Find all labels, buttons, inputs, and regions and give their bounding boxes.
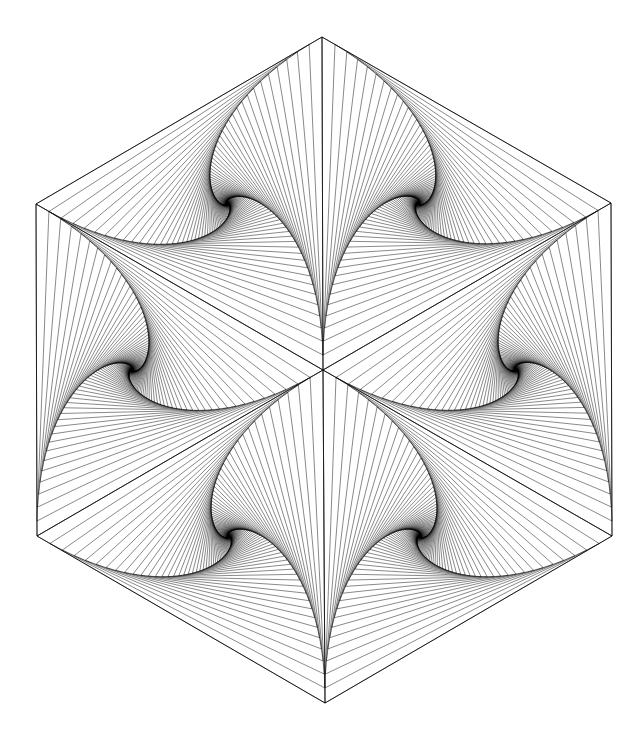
whirl-triangle-6 xyxy=(36,37,323,370)
artwork-canvas: Hexagonal string-art whirl pattern xyxy=(0,0,644,738)
whirl-triangle-4 xyxy=(37,370,325,703)
whirl-triangle-3 xyxy=(323,370,612,703)
whirl-triangle-5 xyxy=(36,204,323,536)
whirl-triangle-1 xyxy=(322,37,611,370)
hexagon-whirl-pattern xyxy=(0,0,644,738)
whirl-lines xyxy=(36,37,612,703)
